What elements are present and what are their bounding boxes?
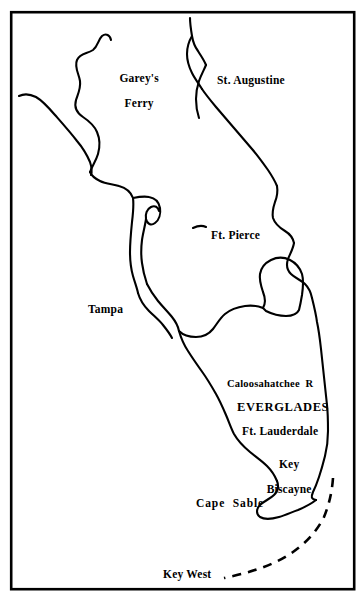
label-cape-sable: Cape Sable bbox=[196, 497, 264, 509]
coastline-gulf-upper bbox=[90, 172, 133, 198]
coastline-east-mid bbox=[273, 186, 294, 243]
bay-tampa-inner bbox=[141, 219, 147, 284]
label-ft-lauderdale: Ft. Lauderdale bbox=[242, 425, 318, 437]
coastline-gulf-mid bbox=[138, 293, 172, 338]
label-gareys-ferry-line1: Garey's bbox=[119, 72, 159, 84]
label-ft-pierce: Ft. Pierce bbox=[211, 229, 260, 241]
label-gareys-ferry-line2: Ferry bbox=[125, 97, 154, 109]
map-canvas bbox=[0, 0, 364, 604]
label-tampa: Tampa bbox=[88, 303, 123, 315]
inlet-ft-pierce bbox=[193, 226, 206, 228]
label-everglades: EVERGLADES bbox=[237, 401, 329, 415]
lake-okeechobee bbox=[260, 258, 303, 316]
coastline-east-north bbox=[190, 18, 206, 65]
label-st-augustine: St. Augustine bbox=[217, 74, 285, 86]
coastline-east-upper bbox=[202, 89, 277, 186]
label-gareys-ferry: Garey's Ferry bbox=[107, 60, 159, 122]
coastline-east-south bbox=[312, 298, 328, 500]
label-key-biscayne-line2: Biscayne bbox=[267, 483, 312, 495]
river-caloosahatchee bbox=[179, 306, 263, 337]
coastline-northwest bbox=[19, 94, 92, 175]
label-key-west: Key West bbox=[163, 568, 211, 580]
river-st-johns bbox=[75, 35, 111, 172]
label-caloosahatchee-r: Caloosahatchee R bbox=[227, 378, 313, 389]
coastline-gulf bbox=[130, 198, 138, 293]
label-key-biscayne-line1: Key bbox=[279, 458, 299, 470]
florida-map: Garey's Ferry St. Augustine Ft. Pierce T… bbox=[0, 0, 364, 604]
